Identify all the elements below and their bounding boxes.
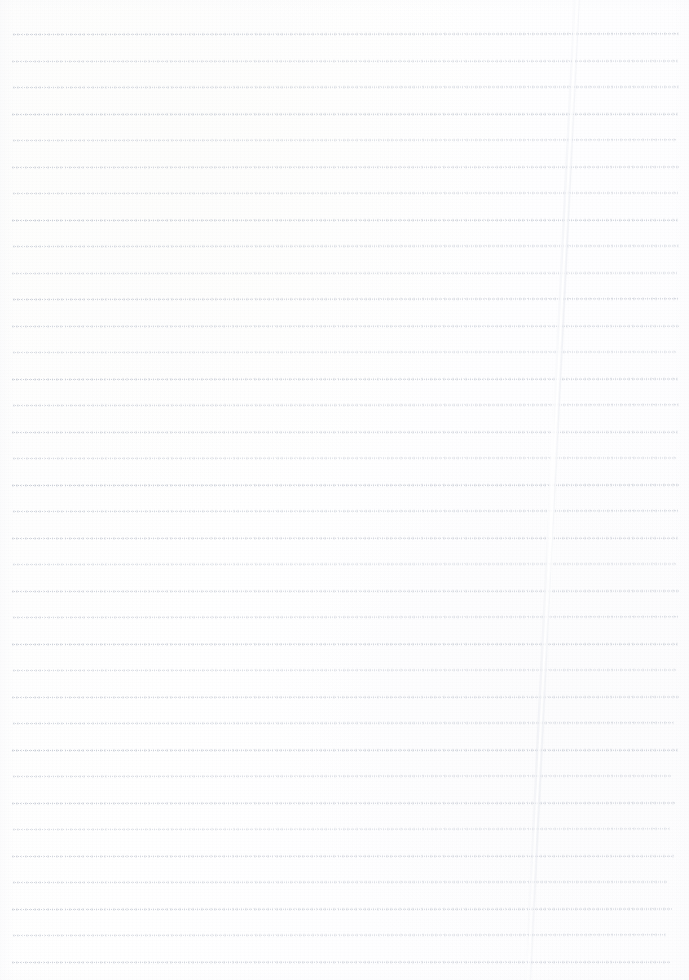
ruled-line [12, 114, 678, 115]
ruled-line [13, 139, 677, 141]
ruled-line [12, 273, 677, 274]
ruled-line [13, 351, 676, 353]
ruled-line [13, 245, 679, 247]
ruled-line [12, 61, 678, 62]
ruled-line [13, 616, 678, 618]
ruled-line [13, 934, 666, 936]
ruled-line [12, 909, 672, 910]
ruled-line [13, 457, 677, 459]
ruled-line [13, 510, 678, 512]
ruled-line [12, 697, 679, 698]
ruled-line [13, 775, 672, 777]
ruled-line [12, 485, 679, 486]
ruled-line [13, 298, 678, 300]
ruled-line [13, 722, 674, 724]
ruled-line [12, 326, 679, 327]
ruled-line [13, 404, 679, 406]
ruled-line [13, 828, 670, 830]
ruled-line [12, 379, 678, 380]
ruled-line [12, 962, 670, 963]
ruled-line [13, 192, 678, 194]
ruled-line [12, 591, 679, 592]
ruled-line [13, 563, 676, 565]
ruled-line [12, 167, 679, 168]
ruled-line [12, 538, 678, 539]
ruled-line [13, 86, 679, 88]
scanned-page [0, 0, 689, 980]
ruled-line [13, 669, 677, 671]
ruled-line [12, 644, 678, 645]
ruled-lines-layer [0, 0, 689, 980]
ruled-line [13, 33, 679, 35]
ruled-line [12, 856, 674, 857]
ruled-line [12, 750, 678, 751]
ruled-line [13, 881, 668, 883]
ruled-line [12, 220, 678, 221]
ruled-line [12, 432, 678, 433]
ruled-line [12, 803, 676, 804]
